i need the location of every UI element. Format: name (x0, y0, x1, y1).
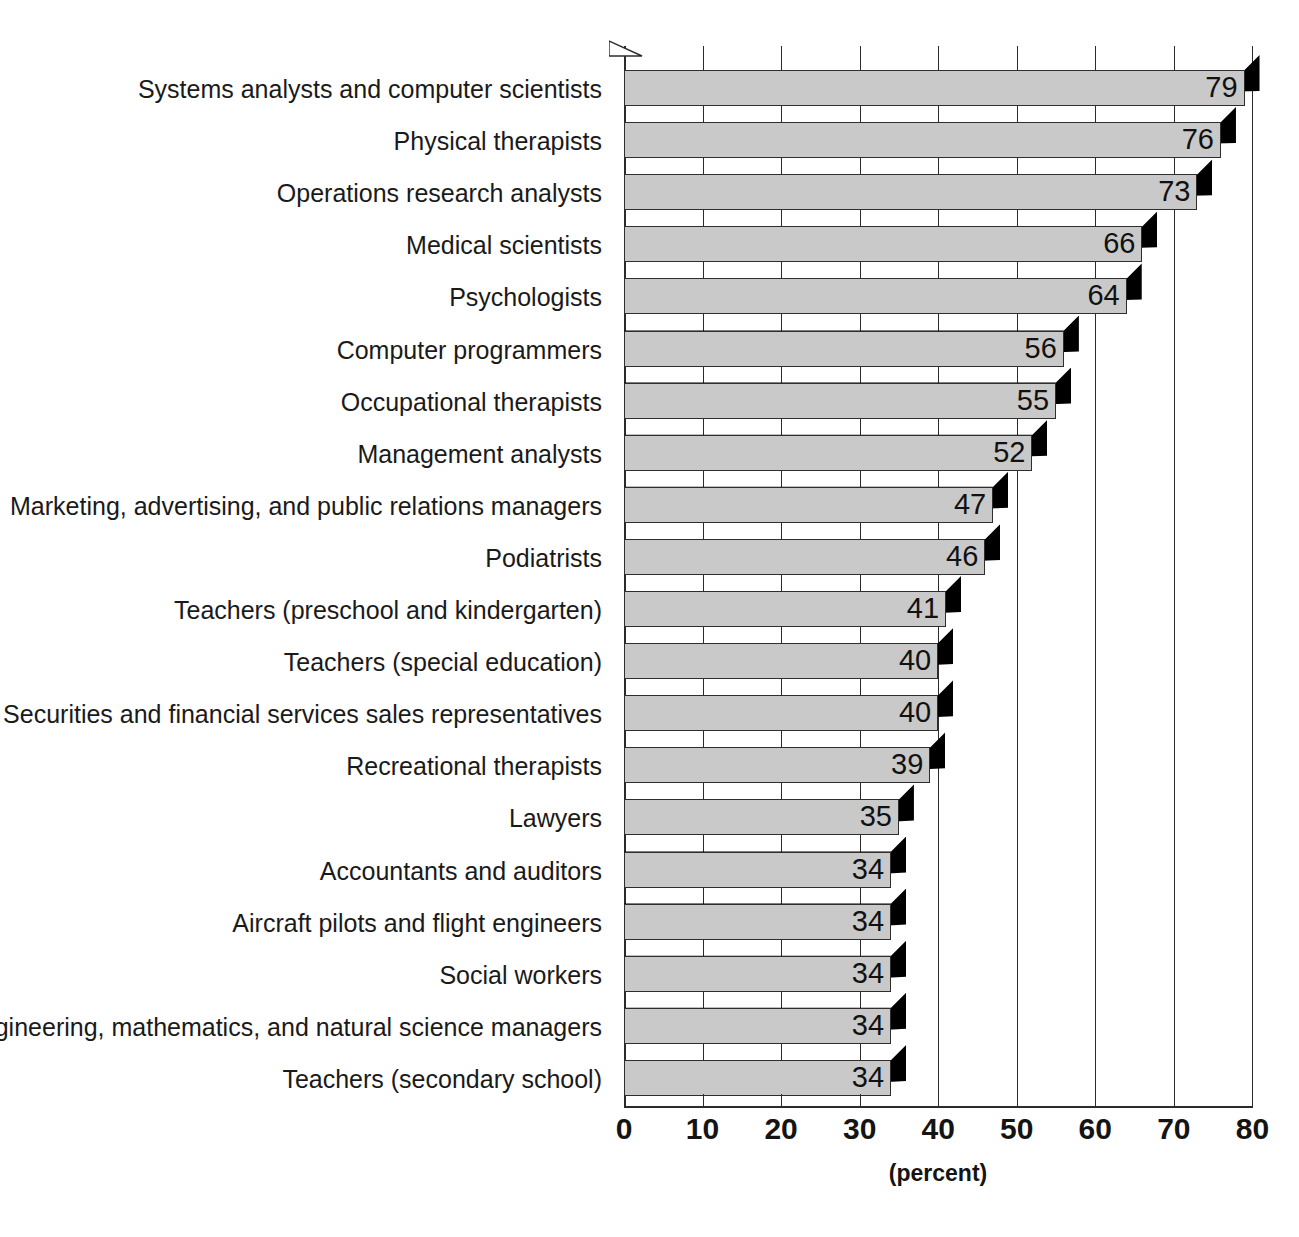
x-axis-label: (percent) (624, 1160, 1252, 1187)
x-tick-20 (781, 1094, 782, 1108)
x-tick-40 (938, 1094, 939, 1108)
bar-value-label: 46 (624, 539, 985, 575)
bar-value-label: 56 (624, 331, 1064, 367)
bar-value-label: 34 (624, 1008, 891, 1044)
bar-value-label: 47 (624, 487, 993, 523)
bar-row: Aircraft pilots and flight engineers34 (0, 889, 1299, 941)
bar-value-label: 66 (624, 226, 1142, 262)
bar-value-label: 40 (624, 643, 938, 679)
category-label: Securities and financial services sales … (3, 696, 602, 732)
category-label: Physical therapists (394, 123, 602, 159)
category-label: Operations research analysts (277, 175, 602, 211)
bar-3d: 76 (624, 107, 1236, 158)
category-label: Systems analysts and computer scientists (138, 71, 602, 107)
category-label: Podiatrists (485, 540, 602, 576)
bar-value-label: 35 (624, 799, 899, 835)
bar-3d: 40 (624, 680, 953, 731)
bar-3d: 41 (624, 576, 961, 627)
bar-3d: 34 (624, 993, 906, 1044)
category-label: Lawyers (509, 800, 602, 836)
bar-row: Management analysts52 (0, 420, 1299, 472)
x-tick-label-50: 50 (987, 1112, 1047, 1146)
bar-3d: 55 (624, 368, 1071, 419)
bar-row: Engineering, mathematics, and natural sc… (0, 993, 1299, 1045)
category-label: Psychologists (449, 279, 602, 315)
x-tick-label-70: 70 (1144, 1112, 1204, 1146)
x-tick-80 (1252, 1094, 1253, 1108)
category-label: Occupational therapists (341, 384, 602, 420)
bar-row: Medical scientists66 (0, 211, 1299, 263)
bar-value-label: 79 (624, 70, 1245, 106)
bar-row: Social workers34 (0, 941, 1299, 993)
category-label: Management analysts (357, 436, 602, 472)
x-tick-label-60: 60 (1065, 1112, 1125, 1146)
bar-3d: 35 (624, 784, 914, 835)
bar-row: Systems analysts and computer scientists… (0, 55, 1299, 107)
x-tick-0 (624, 1094, 625, 1108)
category-label: Computer programmers (337, 332, 602, 368)
bar-row: Computer programmers56 (0, 316, 1299, 368)
category-label: Social workers (439, 957, 602, 993)
bar-3d: 46 (624, 524, 1000, 575)
bar-value-label: 41 (624, 591, 946, 627)
horizontal-bar-chart: Systems analysts and computer scientists… (0, 0, 1299, 1237)
x-tick-label-10: 10 (673, 1112, 733, 1146)
category-label: Teachers (secondary school) (282, 1061, 602, 1097)
bar-row: Recreational therapists39 (0, 732, 1299, 784)
x-tick-10 (703, 1094, 704, 1108)
category-label: Marketing, advertising, and public relat… (10, 488, 602, 524)
x-tick-label-0: 0 (594, 1112, 654, 1146)
x-tick-70 (1174, 1094, 1175, 1108)
bar-row: Teachers (special education)40 (0, 628, 1299, 680)
x-tick-label-40: 40 (908, 1112, 968, 1146)
bar-value-label: 34 (624, 852, 891, 888)
bar-3d: 52 (624, 420, 1047, 471)
category-label: Teachers (preschool and kindergarten) (174, 592, 602, 628)
bar-value-label: 55 (624, 383, 1056, 419)
bar-row: Accountants and auditors34 (0, 837, 1299, 889)
bar-value-label: 39 (624, 747, 930, 783)
bar-row: Lawyers35 (0, 784, 1299, 836)
bar-row: Teachers (preschool and kindergarten)41 (0, 576, 1299, 628)
bar-row: Securities and financial services sales … (0, 680, 1299, 732)
bar-3d: 34 (624, 837, 906, 888)
bar-3d: 66 (624, 211, 1157, 262)
bar-3d: 73 (624, 159, 1212, 210)
category-label: Accountants and auditors (320, 853, 602, 889)
bar-3d: 47 (624, 472, 1008, 523)
bar-value-label: 52 (624, 435, 1032, 471)
bar-3d: 39 (624, 732, 945, 783)
x-tick-label-80: 80 (1222, 1112, 1282, 1146)
bar-row: Podiatrists46 (0, 524, 1299, 576)
bar-3d: 34 (624, 1045, 906, 1096)
bar-3d: 64 (624, 263, 1142, 314)
bar-value-label: 76 (624, 122, 1221, 158)
bar-value-label: 34 (624, 1060, 891, 1096)
category-label: Aircraft pilots and flight engineers (232, 905, 602, 941)
bar-value-label: 73 (624, 174, 1197, 210)
bar-row: Operations research analysts73 (0, 159, 1299, 211)
x-tick-30 (860, 1094, 861, 1108)
bar-row: Physical therapists76 (0, 107, 1299, 159)
category-label: Recreational therapists (346, 748, 602, 784)
bar-value-label: 34 (624, 904, 891, 940)
x-tick-label-30: 30 (830, 1112, 890, 1146)
x-tick-50 (1017, 1094, 1018, 1108)
category-label: Teachers (special education) (284, 644, 602, 680)
bar-3d: 34 (624, 889, 906, 940)
x-tick-label-20: 20 (751, 1112, 811, 1146)
bar-value-label: 40 (624, 695, 938, 731)
bar-3d: 56 (624, 316, 1079, 367)
bar-3d: 79 (624, 55, 1260, 106)
bar-value-label: 64 (624, 278, 1127, 314)
bar-value-label: 34 (624, 956, 891, 992)
category-label: Medical scientists (406, 227, 602, 263)
bar-row: Occupational therapists55 (0, 368, 1299, 420)
bar-3d: 40 (624, 628, 953, 679)
bar-row: Marketing, advertising, and public relat… (0, 472, 1299, 524)
bar-row: Teachers (secondary school)34 (0, 1045, 1299, 1097)
x-tick-60 (1095, 1094, 1096, 1108)
bar-3d: 34 (624, 941, 906, 992)
bar-row: Psychologists64 (0, 263, 1299, 315)
category-label: Engineering, mathematics, and natural sc… (0, 1009, 602, 1045)
